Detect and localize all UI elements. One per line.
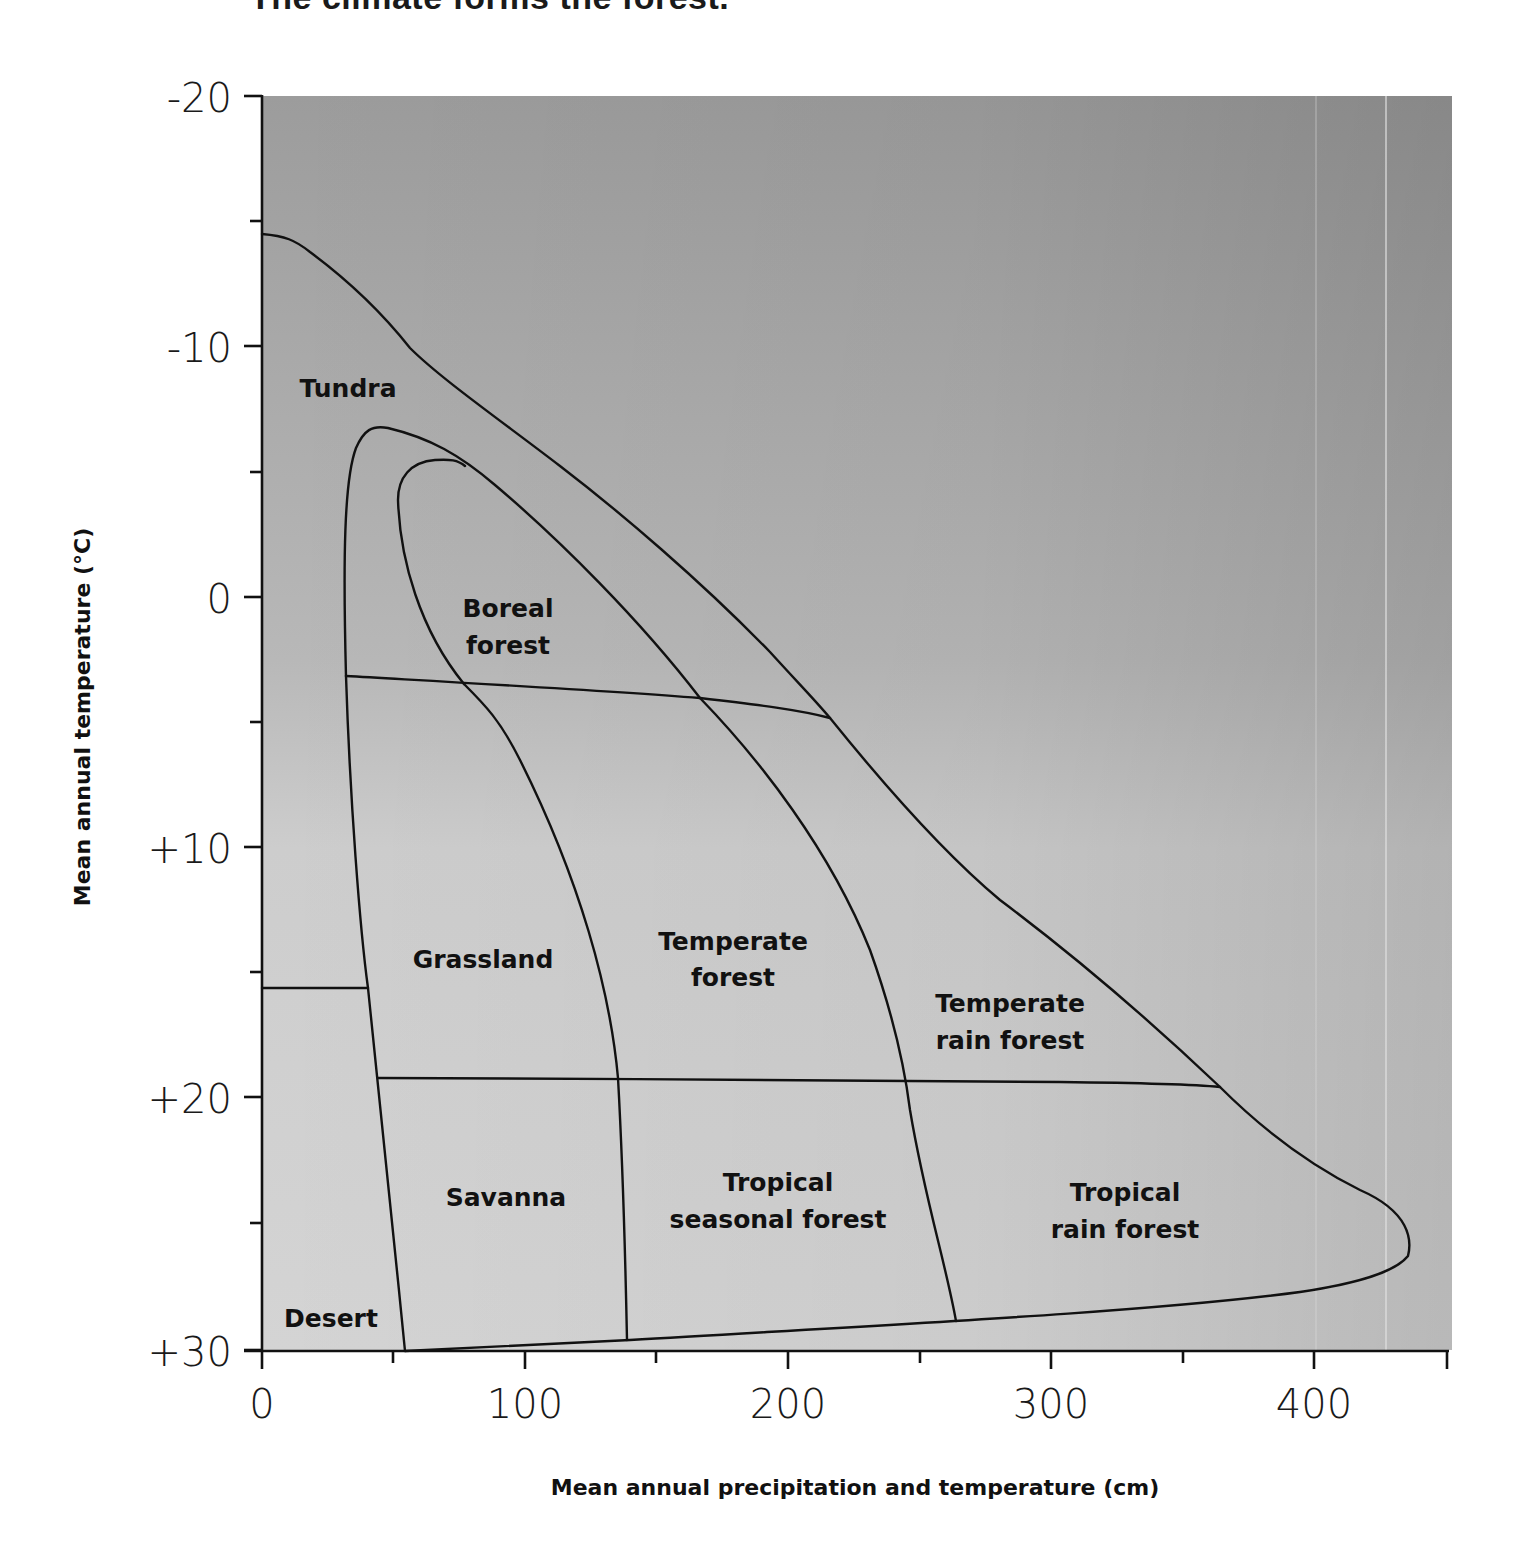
y-axis [244,95,262,1351]
label-trop-rain-1: Tropical [1070,1178,1181,1207]
biome-diagram: -20 -10 0 +10 +20 +30 0 100 200 300 400 … [0,0,1518,1548]
plot-shade [262,96,1452,1350]
y-tick-label: +20 [148,1076,232,1122]
label-temp-rain-2: rain forest [936,1026,1084,1055]
x-tick-label: 200 [750,1381,826,1427]
x-tick-label: 300 [1013,1381,1089,1427]
x-axis [244,1351,1449,1369]
y-tick-label: 0 [207,576,232,622]
label-tundra: Tundra [300,374,397,403]
y-axis-title: Mean annual temperature (°C) [70,528,95,906]
label-trop-seasonal-1: Tropical [723,1168,834,1197]
label-desert: Desert [284,1304,378,1333]
label-savanna: Savanna [446,1183,567,1212]
x-tick-label: 0 [249,1381,274,1427]
label-grassland: Grassland [413,945,554,974]
x-axis-title: Mean annual precipitation and temperatur… [551,1475,1159,1500]
x-tick-label: 400 [1276,1381,1352,1427]
label-trop-seasonal-2: seasonal forest [670,1205,887,1234]
label-boreal-2: forest [466,631,550,660]
label-temperate-1: Temperate [658,927,808,956]
y-tick-label: +30 [148,1329,232,1375]
y-tick-label: -10 [167,325,232,371]
label-temp-rain-1: Temperate [935,989,1085,1018]
y-tick-label: +10 [148,826,232,872]
label-trop-rain-2: rain forest [1051,1215,1199,1244]
label-temperate-2: forest [691,963,775,992]
y-tick-label: -20 [167,75,232,121]
label-boreal-1: Boreal [463,594,554,623]
x-tick-label: 100 [487,1381,563,1427]
